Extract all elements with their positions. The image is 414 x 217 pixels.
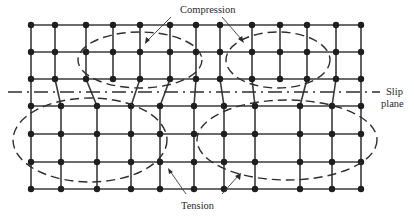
lattice-atom-node [277, 49, 283, 55]
lattice-atom-node [157, 186, 163, 192]
lattice-atom-node [304, 49, 310, 55]
lattice-atom-node [167, 76, 173, 82]
lattice-atom-node [137, 22, 143, 28]
lattice-atom-node [83, 49, 89, 55]
lattice-atom-node [277, 22, 283, 28]
lattice-atom-node [333, 22, 339, 28]
compression-leader-left [147, 17, 171, 41]
lattice-atom-node [28, 22, 34, 28]
lattice-atom-node [191, 131, 197, 137]
lattice-atom-node [358, 76, 364, 82]
lattice-atom-node [304, 22, 310, 28]
lattice-atom-node [358, 49, 364, 55]
lattice-atom-node [358, 131, 364, 137]
lattice-atom-node [217, 76, 223, 82]
lattice-atom-node [167, 22, 173, 28]
lattice-atom-node [128, 159, 134, 165]
tension-leader-left [170, 171, 186, 194]
lattice-atom-node [297, 131, 303, 137]
lattice-atom-node [28, 131, 34, 137]
slip-plane-label-line2: plane [381, 98, 404, 109]
lattice-atom-node [110, 22, 116, 28]
lattice-atom-node [252, 159, 258, 165]
lattice-atom-node [83, 22, 89, 28]
slip-plane-label-line1: Slip [386, 86, 403, 97]
lattice-atom-node [249, 22, 255, 28]
lattice-atom-node [329, 159, 335, 165]
lattice-atom-node [137, 49, 143, 55]
tension-label: Tension [181, 200, 215, 211]
lattice-atom-node [94, 131, 100, 137]
lattice-atom-node [52, 76, 58, 82]
lattice-atom-node [94, 103, 100, 109]
lattice-atom-node [83, 76, 89, 82]
compression-arrowhead-left [145, 37, 150, 44]
compression-label: Compression [180, 4, 236, 15]
lattice-atom-node [249, 49, 255, 55]
lattice-atom-node [249, 76, 255, 82]
lattice-atom-node [304, 76, 310, 82]
lattice-atom-node [28, 186, 34, 192]
lattice-atom-node [167, 49, 173, 55]
lattice-atom-node [157, 131, 163, 137]
lattice-atom-node [191, 159, 197, 165]
lattice-atom-node [94, 159, 100, 165]
lattice-grid [28, 22, 364, 192]
lattice-atom-node [28, 76, 34, 82]
lattice-atom-node [128, 131, 134, 137]
lattice-atom-node [193, 22, 199, 28]
lattice-atom-node [358, 103, 364, 109]
lattice-atom-node [110, 76, 116, 82]
lattice-atom-node [358, 22, 364, 28]
lattice-atom-node [128, 186, 134, 192]
lattice-atom-node [191, 186, 197, 192]
lattice-atom-node [333, 49, 339, 55]
lattice-atom-node [28, 103, 34, 109]
lattice-atom-node [277, 76, 283, 82]
lattice-atom-node [252, 131, 258, 137]
tension-zone-ellipse [13, 98, 167, 182]
tension-arrowhead-left [168, 168, 173, 174]
lattice-atom-node [221, 103, 227, 109]
lattice-atom-node [329, 131, 335, 137]
lattice-atom-node [297, 186, 303, 192]
lattice-atom-node [217, 49, 223, 55]
lattice-atom-node [191, 103, 197, 109]
lattice-atom-node [58, 103, 64, 109]
lattice-atom-node [221, 159, 227, 165]
lattice-atom-node [217, 22, 223, 28]
lattice-atom-node [157, 103, 163, 109]
lattice-atom-node [28, 49, 34, 55]
lattice-atom-node [52, 22, 58, 28]
lattice-atom-node [52, 49, 58, 55]
dislocation-lattice-diagram: Compression Tension Slip plane [0, 0, 414, 217]
lattice-atom-node [221, 131, 227, 137]
lattice-atom-node [329, 186, 335, 192]
compression-leader-right [222, 17, 242, 40]
lattice-atom-node [252, 103, 258, 109]
lattice-atom-node [297, 159, 303, 165]
lattice-atom-node [252, 186, 258, 192]
lattice-atom-node [58, 159, 64, 165]
lattice-atom-node [94, 186, 100, 192]
lattice-atom-node [193, 76, 199, 82]
lattice-atom-node [358, 186, 364, 192]
lattice-atom-node [58, 131, 64, 137]
lattice-atom-node [297, 103, 303, 109]
lattice-atom-node [110, 49, 116, 55]
lattice-atom-node [137, 76, 143, 82]
lattice-atom-node [333, 76, 339, 82]
lattice-atom-node [28, 159, 34, 165]
lattice-atom-node [58, 186, 64, 192]
